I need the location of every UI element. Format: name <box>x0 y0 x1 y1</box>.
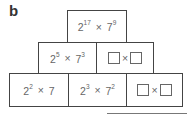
pyramid-bottom-left-box: 22 × 7 <box>9 73 69 107</box>
pyramid-top-box: 217 × 79 <box>67 10 127 43</box>
expression: 22 × 7 <box>23 84 54 97</box>
answer-blank-3[interactable] <box>137 84 149 96</box>
answer-blank-2[interactable] <box>130 52 142 64</box>
answer-blank-4[interactable] <box>160 84 172 96</box>
part-label: b <box>9 2 18 19</box>
pyramid-middle-left-box: 25 × 73 <box>38 42 97 74</box>
pyramid-bottom-right-box: × <box>126 73 183 107</box>
pyramid-bottom-middle-box: 23 × 72 <box>68 73 127 107</box>
expression: 23 × 72 <box>80 84 115 97</box>
answer-line <box>107 113 187 114</box>
expression: 25 × 73 <box>50 52 85 65</box>
pyramid-middle-right-box: × <box>96 42 154 74</box>
answer-blank-1[interactable] <box>108 52 120 64</box>
expression: 217 × 79 <box>78 20 117 33</box>
